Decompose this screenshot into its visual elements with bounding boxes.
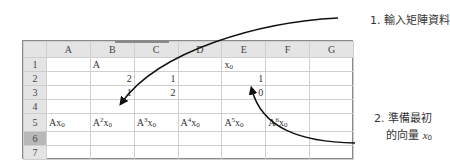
spreadsheet-grid: A B C D E F G 1 A x0 2 2 1 1 — [22, 40, 353, 159]
row-header-6[interactable]: 6 — [24, 132, 47, 146]
cell-b7[interactable] — [90, 146, 134, 160]
row-header-3[interactable]: 3 — [24, 86, 47, 100]
cell-f1[interactable] — [266, 58, 310, 72]
cell-a6[interactable] — [47, 132, 91, 146]
cell-c2[interactable]: 1 — [134, 72, 178, 86]
column-header-c[interactable]: C — [134, 42, 178, 58]
cell-e3[interactable]: 0 — [222, 86, 266, 100]
cell-e1[interactable]: x0 — [222, 58, 266, 72]
cell-b6[interactable] — [90, 132, 134, 146]
column-header-f[interactable]: F — [266, 42, 310, 58]
cell-d2[interactable] — [178, 72, 222, 86]
cell-b5[interactable]: A2x0 — [90, 114, 134, 132]
column-header-e[interactable]: E — [222, 42, 266, 58]
cell-a2[interactable] — [47, 72, 91, 86]
cell-f6[interactable] — [266, 132, 310, 146]
column-header-b[interactable]: B — [90, 42, 134, 58]
row-header-5[interactable]: 5 — [24, 114, 47, 132]
cell-d3[interactable] — [178, 86, 222, 100]
cell-g2[interactable] — [310, 72, 354, 86]
cell-g1[interactable] — [310, 58, 354, 72]
annotation-step2: 2. 準備最初 的向量 x0 — [374, 110, 432, 144]
cell-d1[interactable] — [178, 58, 222, 72]
cell-g3[interactable] — [310, 86, 354, 100]
cell-d5[interactable]: A4x0 — [178, 114, 222, 132]
cell-d7[interactable] — [178, 146, 222, 160]
annotation-step1: 1. 輸入矩陣資料 — [370, 11, 450, 27]
cell-f4[interactable] — [266, 100, 310, 114]
cell-e2[interactable]: 1 — [222, 72, 266, 86]
cell-e5[interactable]: A5x0 — [222, 114, 266, 132]
cell-f3[interactable] — [266, 86, 310, 100]
cell-a4[interactable] — [47, 100, 91, 114]
row-header-1[interactable]: 1 — [24, 58, 47, 72]
cell-g4[interactable] — [310, 100, 354, 114]
cell-b2[interactable]: 2 — [90, 72, 134, 86]
row-header-7[interactable]: 7 — [24, 146, 47, 160]
cell-a5[interactable]: Ax0 — [47, 114, 91, 132]
cell-c4[interactable] — [134, 100, 178, 114]
cell-b3[interactable]: 1 — [90, 86, 134, 100]
cell-e4[interactable] — [222, 100, 266, 114]
cell-g5[interactable] — [310, 114, 354, 132]
header-highlight-bar — [115, 40, 169, 43]
cell-a3[interactable] — [47, 86, 91, 100]
cell-e6[interactable] — [222, 132, 266, 146]
cell-c5[interactable]: A3x0 — [134, 114, 178, 132]
cell-g7[interactable] — [310, 146, 354, 160]
cell-g6[interactable] — [310, 132, 354, 146]
cell-d4[interactable] — [178, 100, 222, 114]
row-header-2[interactable]: 2 — [24, 72, 47, 86]
cell-c1[interactable] — [134, 58, 178, 72]
spreadsheet-table: A B C D E F G 1 A x0 2 2 1 1 — [23, 41, 354, 160]
cell-f7[interactable] — [266, 146, 310, 160]
cell-b4[interactable] — [90, 100, 134, 114]
cell-a1[interactable] — [47, 58, 91, 72]
cell-a7[interactable] — [47, 146, 91, 160]
cell-e7[interactable] — [222, 146, 266, 160]
cell-b1[interactable]: A — [90, 58, 134, 72]
cell-f5[interactable]: A6x0 — [266, 114, 310, 132]
column-header-a[interactable]: A — [47, 42, 91, 58]
row-header-4[interactable]: 4 — [24, 100, 47, 114]
column-header-d[interactable]: D — [178, 42, 222, 58]
cell-d6[interactable] — [178, 132, 222, 146]
cell-c3[interactable]: 2 — [134, 86, 178, 100]
cell-c6[interactable] — [134, 132, 178, 146]
cell-c7[interactable] — [134, 146, 178, 160]
column-header-g[interactable]: G — [310, 42, 354, 58]
cell-f2[interactable] — [266, 72, 310, 86]
select-all-corner[interactable] — [24, 42, 47, 58]
